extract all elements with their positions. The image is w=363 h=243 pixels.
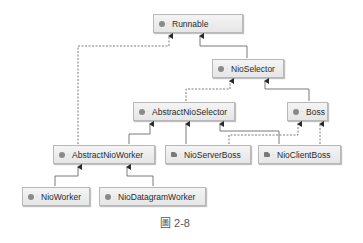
class-icon: [264, 152, 270, 157]
edge-nioworker-abstractnioworker: [55, 167, 78, 186]
node-abstractnioworker[interactable]: ᐧ AbstractNioWorker: [53, 145, 155, 164]
node-label: NioWorker: [41, 192, 81, 202]
public-visibility-icon: ᐧ: [301, 108, 303, 115]
edge-nioselector-runnable: [200, 36, 247, 58]
interface-icon: [293, 109, 299, 115]
node-label: Boss: [306, 107, 325, 117]
public-visibility-icon: ᐧ: [113, 193, 115, 200]
node-label: NioDatagramWorker: [118, 192, 195, 202]
class-diagram: ᐧ Runnable ᐧ NioSelector ᐧ AbstractNioSe…: [0, 0, 363, 243]
node-nioselector[interactable]: ᐧ NioSelector: [212, 59, 284, 78]
node-label: AbstractNioWorker: [72, 150, 143, 160]
public-visibility-icon: ᐧ: [179, 151, 181, 158]
node-label: AbstractNioSelector: [152, 107, 227, 117]
class-icon: [171, 152, 177, 157]
node-niodatagramworker[interactable]: ᐧ NioDatagramWorker: [99, 187, 206, 206]
node-boss[interactable]: ᐧ Boss: [287, 102, 328, 121]
abstract-class-icon: [59, 152, 65, 158]
edge-boss-nioselector: [265, 81, 309, 101]
edge-nioserverboss-boss: [229, 124, 298, 144]
abstract-class-icon: [139, 109, 145, 115]
interface-icon: [218, 66, 224, 72]
interface-icon: [159, 21, 165, 27]
node-abstractnioselector[interactable]: ᐧ AbstractNioSelector: [133, 102, 235, 121]
edge-nioclientboss-abstractnioselector: [220, 124, 279, 144]
edge-abstractnioselector-nioselector: [186, 81, 230, 101]
public-visibility-icon: ᐧ: [167, 20, 169, 27]
class-icon: [105, 194, 111, 200]
edge-abstractnioworker-abstractnioselector: [129, 124, 150, 144]
edge-abstractnioworker-runnable: [78, 36, 169, 144]
caption-text: 圖 2-8: [160, 214, 190, 230]
class-icon: [28, 194, 34, 200]
inheritance-edges: [0, 0, 363, 243]
public-visibility-icon: ᐧ: [36, 193, 38, 200]
node-label: NioServerBoss: [184, 150, 241, 160]
public-visibility-icon: ᐧ: [226, 65, 228, 72]
node-nioserverboss[interactable]: ᐧ NioServerBoss: [165, 145, 251, 164]
node-label: Runnable: [172, 19, 208, 29]
node-nioclientboss[interactable]: ᐧ NioClientBoss: [258, 145, 341, 164]
public-visibility-icon: ᐧ: [67, 151, 69, 158]
node-label: NioSelector: [231, 64, 275, 74]
edge-niodatagramworker-abstractnioworker: [127, 167, 153, 186]
node-runnable[interactable]: ᐧ Runnable: [153, 14, 243, 33]
figure-caption: 圖 2-8: [160, 214, 190, 230]
public-visibility-icon: ᐧ: [272, 151, 274, 158]
node-nioworker[interactable]: ᐧ NioWorker: [22, 187, 90, 206]
node-label: NioClientBoss: [277, 150, 330, 160]
public-visibility-icon: ᐧ: [147, 108, 149, 115]
